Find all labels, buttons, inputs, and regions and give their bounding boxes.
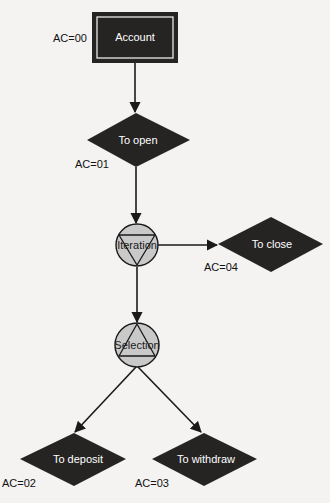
- edge-selection-deposit: [75, 367, 136, 432]
- selection-label: Selection: [114, 339, 159, 351]
- withdraw-label: To withdraw: [177, 453, 235, 465]
- account-code: AC=00: [53, 32, 87, 44]
- account-label: Account: [115, 31, 155, 43]
- iteration-label: Iteration: [117, 239, 157, 251]
- withdraw-code: AC=03: [135, 477, 169, 489]
- open-code: AC=01: [75, 158, 109, 170]
- node-account[interactable]: Account: [92, 12, 178, 63]
- close-code: AC=04: [204, 261, 238, 273]
- node-selection[interactable]: Selection: [114, 323, 159, 367]
- node-iteration[interactable]: Iteration: [116, 224, 158, 266]
- close-label: To close: [252, 238, 292, 250]
- flow-diagram: Account AC=00 To open AC=01 Iteration To…: [0, 0, 330, 503]
- deposit-label: To deposit: [53, 453, 103, 465]
- open-label: To open: [118, 134, 157, 146]
- edge-selection-withdraw: [138, 367, 201, 432]
- deposit-code: AC=02: [2, 477, 36, 489]
